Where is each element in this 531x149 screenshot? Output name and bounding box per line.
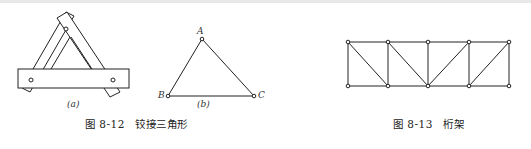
figure-8-13-caption: 图 8-13 桁架	[393, 116, 464, 131]
subfigure-label-a: (a)	[67, 99, 79, 109]
node-c	[252, 94, 256, 98]
truss-diagram	[346, 40, 511, 88]
node-label-a: A	[197, 26, 204, 36]
node-b	[166, 94, 170, 98]
subfigure-label-b: (b)	[197, 99, 210, 109]
pin-left	[29, 78, 33, 82]
node-label-b: B	[158, 90, 165, 100]
node-label-c: C	[258, 90, 265, 100]
pin-top	[64, 27, 68, 31]
pin-right	[111, 78, 115, 82]
node-a	[200, 37, 204, 41]
triangle-abc-diagram	[166, 37, 256, 98]
hinged-triangle-bars-illustration	[18, 12, 129, 97]
figure-8-12-caption: 图 8-12 铰接三角形	[85, 116, 188, 131]
